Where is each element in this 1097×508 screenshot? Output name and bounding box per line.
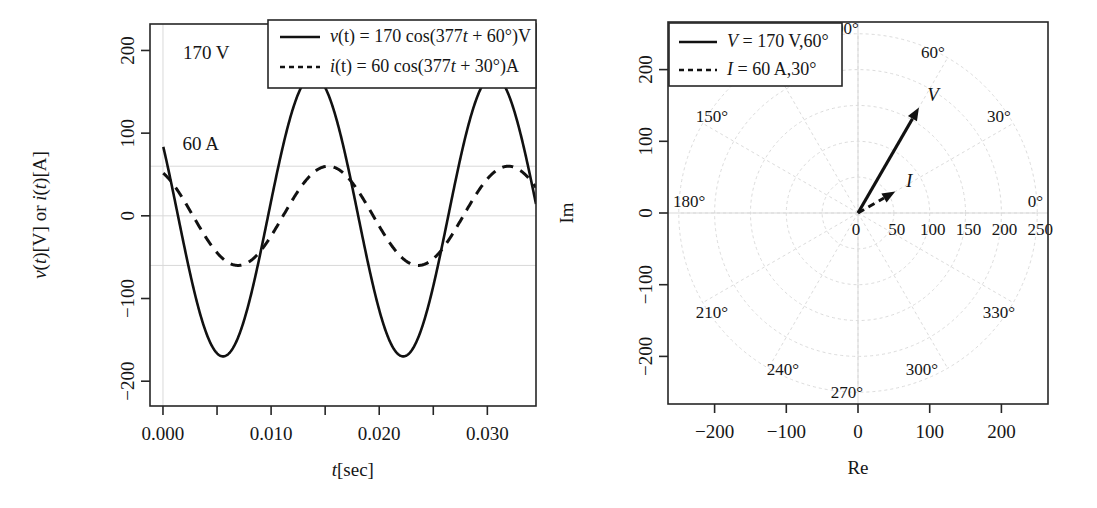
- y-axis-title: Im: [556, 202, 577, 223]
- x-axis-title-unit: [sec]: [337, 459, 374, 480]
- phasor-label-V: V: [927, 84, 941, 105]
- annotation-1: 60 A: [183, 133, 220, 154]
- legend-label-1: i(t) = 60 cos(377t + 30°)A: [330, 56, 519, 77]
- phasor-polar-chart: 0°30°60°90°150°180°210°240°270°300°330°0…: [547, 0, 1097, 508]
- x-tick-label: 100: [915, 421, 944, 442]
- y-tick-label: −200: [117, 362, 138, 401]
- time-domain-chart: 0.0000.0100.0200.030t[sec]−200−100010020…: [0, 0, 550, 508]
- radial-label-50: 50: [888, 220, 905, 239]
- phasors: VI: [858, 84, 941, 213]
- angle-label-30: 30°: [987, 107, 1011, 126]
- radial-label-150: 150: [956, 220, 982, 239]
- y-tick-label: −100: [117, 279, 138, 318]
- angle-label-180: 180°: [673, 192, 705, 211]
- polar-grid-spoke: [703, 123, 858, 213]
- x-tick-label: 200: [987, 421, 1016, 442]
- radial-label-100: 100: [920, 220, 946, 239]
- phasor-chart-panel: 0°30°60°90°150°180°210°240°270°300°330°0…: [547, 0, 1097, 508]
- phasor-label-I: I: [905, 170, 914, 191]
- x-axis-title: Re: [847, 457, 868, 478]
- angle-label-150: 150°: [696, 107, 728, 126]
- phasor-arrowhead-V: [908, 107, 919, 121]
- y-tick-label: 200: [117, 36, 138, 65]
- x-tick-label: −100: [767, 421, 806, 442]
- angle-label-270: 270°: [831, 383, 863, 402]
- legend-label-0: v(t) = 170 cos(377t + 60°)V: [330, 26, 531, 47]
- y-tick-label: −200: [635, 337, 656, 376]
- legend-label-1: I = 60 A,30°: [726, 59, 816, 79]
- polar-grid-spoke: [768, 213, 858, 368]
- y-tick-label: 200: [635, 55, 656, 84]
- polar-grid-spoke: [703, 213, 858, 303]
- phasor-arrowhead-I: [881, 191, 895, 202]
- angle-label-300: 300°: [906, 360, 938, 379]
- y-tick-label: 0: [635, 208, 656, 218]
- y-tick-label: 0: [117, 211, 138, 221]
- y-tick-label: −100: [635, 265, 656, 304]
- radial-label-250: 250: [1027, 220, 1053, 239]
- legend-label-0: V = 170 V,60°: [727, 31, 829, 51]
- legend: v(t) = 170 cos(377t + 60°)Vi(t) = 60 cos…: [268, 20, 536, 88]
- x-tick-label: −200: [695, 421, 734, 442]
- radial-label-0: 0: [852, 220, 861, 239]
- x-axis: −200−1000100200Re: [695, 404, 1016, 478]
- y-axis: −200−1000100200: [117, 36, 150, 401]
- y-tick-label: 100: [635, 127, 656, 156]
- x-tick-label: 0: [853, 421, 863, 442]
- x-tick-label: 0.010: [250, 423, 293, 444]
- angle-label-210: 210°: [696, 303, 728, 322]
- legend: V = 170 V,60°I = 60 A,30°: [669, 23, 842, 86]
- angle-label-240: 240°: [767, 360, 799, 379]
- angle-label-60: 60°: [921, 43, 945, 62]
- x-tick-label: 0.000: [142, 423, 185, 444]
- time-domain-chart-panel: 0.0000.0100.0200.030t[sec]−200−100010020…: [0, 0, 550, 508]
- annotation-0: 170 V: [183, 42, 230, 63]
- y-axis-title: v(t)[V] or i(t)[A]: [29, 151, 51, 279]
- angle-label-0: 0°: [1028, 192, 1043, 211]
- radial-label-200: 200: [992, 220, 1018, 239]
- annotations: 170 V60 A: [183, 42, 230, 154]
- x-axis: 0.0000.0100.0200.030t[sec]: [142, 406, 509, 480]
- y-axis: −200−1000100200Im: [556, 55, 668, 376]
- y-tick-label: 100: [117, 119, 138, 148]
- x-tick-label: 0.030: [466, 423, 509, 444]
- figure-root: 0.0000.0100.0200.030t[sec]−200−100010020…: [0, 0, 1097, 508]
- radial-labels: 050100150200250: [852, 220, 1053, 239]
- angle-label-330: 330°: [983, 303, 1015, 322]
- x-tick-label: 0.020: [358, 423, 401, 444]
